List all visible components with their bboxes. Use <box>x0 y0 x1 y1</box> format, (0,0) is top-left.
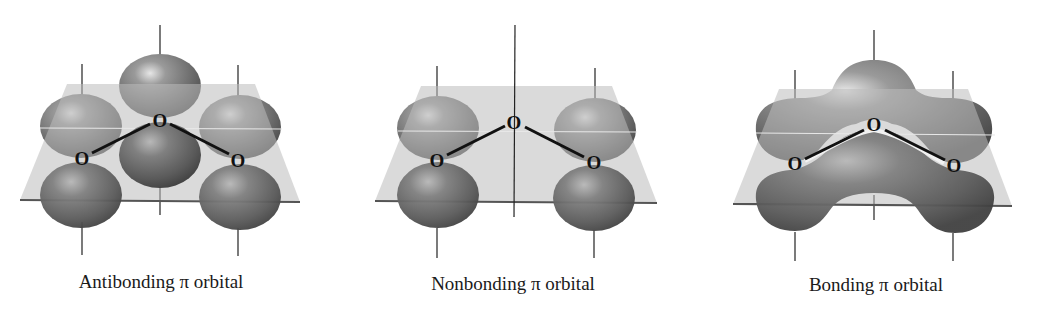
panel-nonbonding: O O O <box>375 25 657 258</box>
atom-o-center: O <box>507 112 522 133</box>
atom-o-center: O <box>867 114 882 135</box>
orbital-lobe <box>553 165 635 231</box>
caption-antibonding: Antibonding π orbital <box>79 271 244 293</box>
orbital-lobe <box>40 162 122 228</box>
atom-o-left: O <box>788 153 803 174</box>
atom-o-center: O <box>153 110 168 131</box>
caption-nonbonding: Nonbonding π orbital <box>431 273 595 295</box>
atom-o-right: O <box>587 152 602 173</box>
atom-o-right: O <box>947 155 962 176</box>
caption-bonding: Bonding π orbital <box>809 274 943 296</box>
atom-o-left: O <box>430 150 445 171</box>
orbital-lobe <box>397 162 479 228</box>
atom-o-left: O <box>75 148 90 169</box>
ozone-pi-orbitals-diagram: O O O O O O <box>0 0 1037 315</box>
panel-bonding: O O O <box>733 30 1012 261</box>
orbital-lobe <box>199 164 281 230</box>
panel-antibonding: O O O <box>20 25 300 256</box>
atom-o-right: O <box>231 150 246 171</box>
